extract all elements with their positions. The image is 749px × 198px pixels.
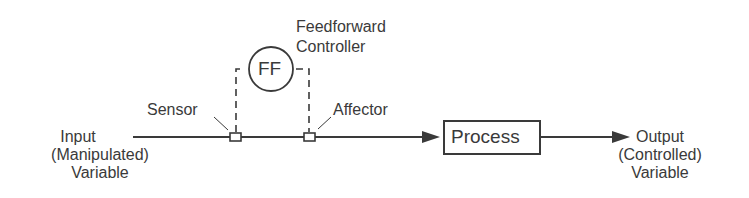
input-label-line2: (Manipulated) xyxy=(30,146,170,164)
affector-label: Affector xyxy=(333,101,388,119)
sensor-node xyxy=(230,133,241,141)
controller-label-line2: Controller xyxy=(296,38,365,56)
output-label-line1: Output xyxy=(600,128,720,146)
output-label-line3: Variable xyxy=(600,164,720,182)
sensor-label: Sensor xyxy=(147,101,198,119)
input-label: Input (Manipulated) Variable xyxy=(30,128,170,182)
controller-to-affector-dashed-line xyxy=(296,69,309,132)
controller-label-line1: Feedforward xyxy=(296,18,386,36)
sensor-leader-line xyxy=(214,117,228,130)
input-label-line3: Variable xyxy=(30,164,170,182)
output-label-line2: (Controlled) xyxy=(600,146,720,164)
arrow-to-process-icon xyxy=(422,131,440,143)
output-label: Output (Controlled) Variable xyxy=(600,128,720,182)
ff-symbol: FF xyxy=(258,59,281,79)
sensor-to-controller-dashed-line xyxy=(236,69,245,132)
input-label-line1: Input xyxy=(30,128,170,146)
affector-leader-line xyxy=(318,117,331,129)
affector-node xyxy=(304,133,315,141)
process-label: Process xyxy=(451,127,520,147)
